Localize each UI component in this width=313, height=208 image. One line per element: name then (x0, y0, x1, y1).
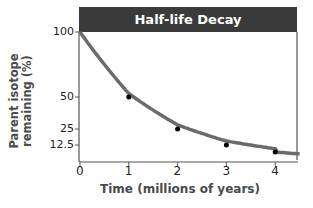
y-tick-label: 50 (60, 90, 74, 103)
x-tick-label: 3 (222, 164, 230, 178)
x-tick-label: 2 (174, 164, 182, 178)
x-tick-label: 0 (76, 164, 84, 178)
plot-area (0, 0, 313, 208)
x-axis-label: Time (millions of years) (80, 182, 280, 196)
x-tick-label: 1 (125, 164, 133, 178)
x-tick-label: 4 (271, 164, 279, 178)
y-tick-label: 12.5 (50, 138, 75, 151)
data-point (126, 95, 131, 100)
y-tick-label: 100 (53, 25, 74, 38)
data-point (273, 150, 278, 155)
y-tick-label: 25 (60, 122, 74, 135)
decay-curve (80, 32, 300, 154)
data-point (175, 127, 180, 132)
data-point (224, 143, 229, 148)
